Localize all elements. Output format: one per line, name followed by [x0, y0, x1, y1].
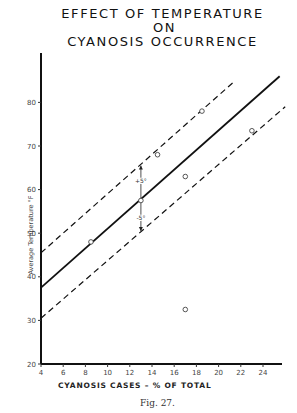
data-point — [89, 240, 94, 245]
x-tick-label: 14 — [148, 369, 157, 377]
x-tick-label: 18 — [192, 369, 201, 377]
data-point — [183, 307, 188, 312]
x-tick-label: 4 — [39, 369, 44, 377]
scatter-plot: 203040506070804681012141618202224Average… — [0, 0, 297, 413]
data-point — [183, 174, 188, 179]
confidence-band-line — [41, 107, 285, 318]
y-tick-label: 30 — [27, 317, 36, 325]
deviation-annotation: -5° — [136, 214, 145, 221]
data-point — [250, 128, 255, 133]
figure-caption: Fig. 27. — [0, 398, 297, 408]
x-axis-label: CYANOSIS CASES – % OF TOTAL — [58, 381, 212, 390]
deviation-annotation: +5° — [135, 177, 147, 184]
x-tick-label: 8 — [83, 369, 87, 377]
x-tick-label: 20 — [214, 369, 223, 377]
y-tick-label: 70 — [27, 143, 36, 151]
x-tick-label: 12 — [125, 369, 134, 377]
confidence-band-line — [41, 81, 235, 253]
regression-line — [41, 76, 280, 287]
x-tick-label: 10 — [103, 369, 112, 377]
x-tick-label: 16 — [170, 369, 179, 377]
x-tick-label: 6 — [61, 369, 66, 377]
y-tick-label: 80 — [27, 99, 36, 107]
x-tick-label: 24 — [259, 369, 268, 377]
data-point — [139, 198, 144, 203]
data-point — [155, 152, 160, 157]
y-axis-label: Average Temperature °F — [27, 195, 35, 274]
y-tick-label: 20 — [27, 361, 36, 369]
data-point — [200, 109, 205, 114]
y-tick-label: 60 — [27, 186, 36, 194]
x-tick-label: 22 — [236, 369, 245, 377]
